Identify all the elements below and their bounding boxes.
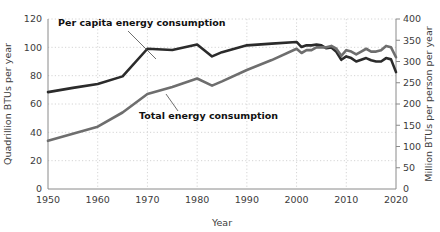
x-axis-tick-label: 1970 [135, 194, 159, 205]
y-axis-left-tick-label: 120 [24, 13, 42, 24]
y-axis-left-title: Quadrillion BTUs per year [2, 43, 13, 165]
y-axis-right-tick-label: 150 [403, 120, 421, 131]
axis-titles-layer: YearQuadrillion BTUs per yearMillion BTU… [2, 26, 434, 228]
y-axis-right-tick-label: 350 [403, 35, 421, 46]
y-axis-right-tick-label: 300 [403, 56, 421, 67]
y-axis-left-tick-label: 40 [30, 127, 42, 138]
x-axis-tick-label: 2020 [384, 194, 408, 205]
y-axis-left-tick-label: 80 [30, 70, 42, 81]
series-layer [48, 42, 396, 141]
y-axis-left-tick-label: 20 [30, 155, 42, 166]
x-axis-tick-label: 1960 [86, 194, 110, 205]
y-axis-right-tick-label: 400 [403, 13, 421, 24]
x-axis-tick-label: 2000 [284, 194, 308, 205]
series-line-per-capita [48, 42, 396, 92]
y-axis-right-tick-label: 50 [403, 162, 415, 173]
x-axis-title: Year [211, 217, 232, 228]
annotations-layer: Per capita energy consumptionTotal energ… [58, 17, 278, 121]
y-axis-right-tick-label: 0 [403, 183, 409, 194]
x-axis-tick-label: 1980 [185, 194, 209, 205]
grid-layer [48, 19, 396, 189]
y-axis-right-tick-label: 200 [403, 98, 421, 109]
x-axis-tick-label: 1990 [235, 194, 259, 205]
chart-canvas: 0204060801001200501001502002503003504001… [0, 0, 440, 232]
annotation-per-capita-label: Per capita energy consumption [58, 17, 226, 28]
y-axis-right-tick-label: 250 [403, 77, 421, 88]
x-axis-tick-label: 2010 [334, 194, 358, 205]
energy-consumption-chart: 0204060801001200501001502002503003504001… [0, 0, 440, 232]
y-axis-right-title: Million BTUs per person per year [423, 26, 434, 181]
annotation-total-leader [166, 94, 178, 111]
y-axis-left-tick-label: 100 [24, 42, 42, 53]
y-axis-left-tick-label: 60 [30, 98, 42, 109]
y-axis-right-tick-label: 100 [403, 141, 421, 152]
annotation-total-label: Total energy consumption [139, 110, 278, 121]
series-line-total [48, 46, 396, 141]
y-axis-left-tick-label: 0 [36, 183, 42, 194]
x-axis-tick-label: 1950 [36, 194, 60, 205]
